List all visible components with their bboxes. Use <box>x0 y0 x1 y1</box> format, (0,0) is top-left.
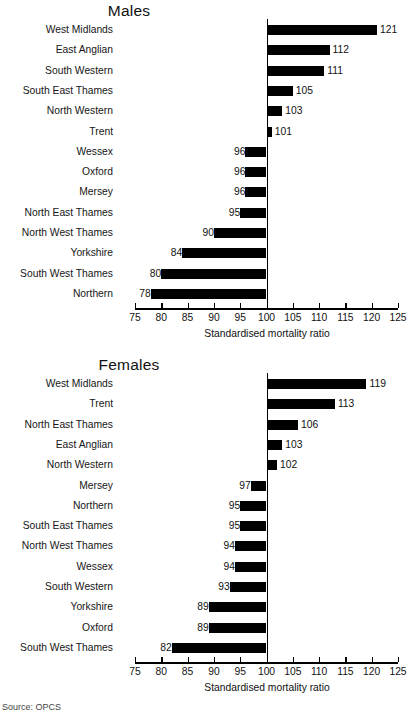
bar-value-label: 112 <box>330 40 349 60</box>
bar <box>240 501 266 511</box>
bar-row: West Midlands121 <box>0 20 406 40</box>
bar-value-label: 96 <box>205 142 248 162</box>
x-axis-tick <box>188 657 189 662</box>
x-axis-tick <box>135 657 136 662</box>
x-axis-tick <box>240 303 241 308</box>
bar-value-label: 97 <box>211 476 254 496</box>
category-label: North Western <box>0 455 113 475</box>
bar <box>267 440 283 450</box>
bar-row: Yorkshire89 <box>0 597 406 617</box>
bar-value-label: 93 <box>190 577 233 597</box>
bar <box>161 269 266 279</box>
bar <box>209 602 267 612</box>
bar <box>245 147 266 157</box>
bar-value-label: 102 <box>277 455 297 475</box>
x-axis-tick <box>398 303 399 308</box>
bar <box>267 420 299 430</box>
x-axis-tick <box>293 303 294 308</box>
bar-value-label: 94 <box>195 557 238 577</box>
bar-row: Yorkshire84 <box>0 243 406 263</box>
category-label: South Western <box>0 577 113 597</box>
x-axis-tick <box>267 657 268 662</box>
bar-row: South East Thames105 <box>0 81 406 101</box>
x-axis-title: Standardised mortality ratio <box>135 682 399 693</box>
x-axis-tick <box>135 303 136 308</box>
bar <box>267 379 367 389</box>
category-label: Yorkshire <box>0 243 113 263</box>
category-label: South Western <box>0 61 113 81</box>
bar-row: Wessex96 <box>0 142 406 162</box>
bar-row: East Anglian112 <box>0 40 406 60</box>
bar <box>267 45 330 55</box>
category-label: South East Thames <box>0 81 113 101</box>
females-plot-area: West Midlands119Trent113North East Thame… <box>0 354 406 654</box>
males-bar-chart: Males West Midlands121East Anglian112Sou… <box>0 0 406 354</box>
bar-value-label: 89 <box>169 618 212 638</box>
x-axis-tick <box>372 657 373 662</box>
bar <box>214 228 267 238</box>
category-label: North West Thames <box>0 536 113 556</box>
bar <box>267 66 325 76</box>
x-axis-tick <box>372 303 373 308</box>
x-axis-tick <box>214 303 215 308</box>
bar <box>240 208 266 218</box>
bar-value-label: 96 <box>205 162 248 182</box>
bar-row: East Anglian103 <box>0 435 406 455</box>
category-label: Trent <box>0 394 113 414</box>
baseline-100 <box>267 373 268 659</box>
bar-value-label: 94 <box>195 536 238 556</box>
bar-value-label: 103 <box>282 101 302 121</box>
category-label: South West Thames <box>0 638 113 658</box>
bar <box>267 399 335 409</box>
bar <box>172 643 267 653</box>
bar-row: South Western111 <box>0 61 406 81</box>
x-axis-line <box>135 308 398 309</box>
bar-row: West Midlands119 <box>0 374 406 394</box>
bar-row: Oxford96 <box>0 162 406 182</box>
category-label: South East Thames <box>0 516 113 536</box>
category-label: Wessex <box>0 557 113 577</box>
x-axis-tick <box>319 657 320 662</box>
x-axis-tick <box>161 657 162 662</box>
bar-value-label: 101 <box>272 122 292 142</box>
category-label: Yorkshire <box>0 597 113 617</box>
x-axis-tick <box>214 657 215 662</box>
x-axis-tick <box>188 303 189 308</box>
category-label: East Anglian <box>0 435 113 455</box>
bar-row: North East Thames95 <box>0 203 406 223</box>
bar-value-label: 80 <box>121 264 164 284</box>
bar-value-label: 84 <box>142 243 185 263</box>
x-axis-tick <box>293 657 294 662</box>
bar <box>151 289 267 299</box>
bar-value-label: 82 <box>132 638 175 658</box>
bar <box>240 521 266 531</box>
bar-row: Trent113 <box>0 394 406 414</box>
females-bar-chart: Females West Midlands119Trent113North Ea… <box>0 354 406 708</box>
category-label: Northern <box>0 496 113 516</box>
bar-value-label: 119 <box>366 374 385 394</box>
bar-value-label: 111 <box>324 61 343 81</box>
bar <box>267 460 278 470</box>
category-label: South West Thames <box>0 264 113 284</box>
bar-value-label: 90 <box>174 223 217 243</box>
bar-row: Oxford89 <box>0 618 406 638</box>
category-label: Oxford <box>0 162 113 182</box>
bar-value-label: 78 <box>111 284 154 304</box>
bar <box>235 541 267 551</box>
bar-value-label: 105 <box>293 81 313 101</box>
bar-row: Mersey97 <box>0 476 406 496</box>
bar <box>267 106 283 116</box>
bar-row: North West Thames94 <box>0 536 406 556</box>
bar <box>267 86 293 96</box>
bar-row: South Western93 <box>0 577 406 597</box>
bar-row: Wessex94 <box>0 557 406 577</box>
category-label: West Midlands <box>0 20 113 40</box>
x-axis-tick <box>161 303 162 308</box>
bar-row: Northern95 <box>0 496 406 516</box>
bar-value-label: 95 <box>200 496 243 516</box>
bar-row: North West Thames90 <box>0 223 406 243</box>
category-label: Wessex <box>0 142 113 162</box>
bar-row: North Western102 <box>0 455 406 475</box>
bar-row: South East Thames95 <box>0 516 406 536</box>
bar <box>245 187 266 197</box>
